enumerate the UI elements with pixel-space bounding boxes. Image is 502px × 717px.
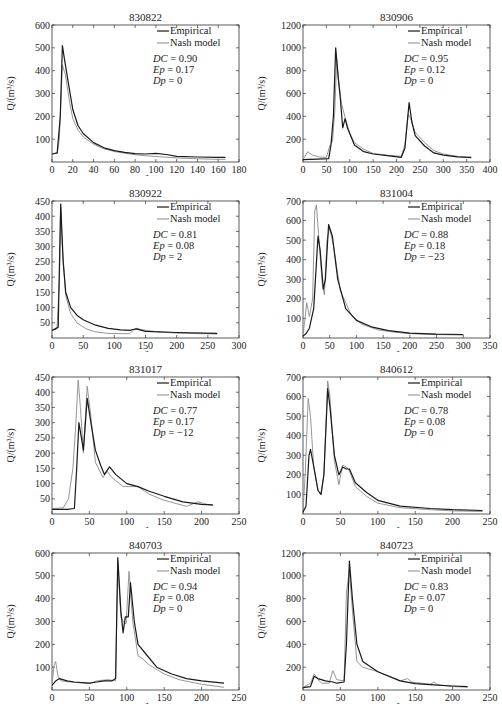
chart-panel-830922: 8309220501001502002503005010015020025030… [0, 176, 251, 352]
x-tick-label: 200 [169, 340, 184, 351]
x-tick-label: 50 [84, 516, 94, 527]
chart-panel-840612: 8406120501001502002501002003004005006007… [251, 352, 502, 528]
x-tick-label: 160 [211, 164, 226, 175]
y-tick-label: 200 [286, 469, 301, 480]
stat-dc: DC = 0.94 [152, 581, 198, 592]
stat-ep: Ep = 0.07 [403, 592, 445, 603]
stat-dc: DC = 0.90 [152, 53, 197, 64]
x-tick-label: 0 [301, 516, 306, 527]
x-tick-label: 50 [321, 164, 331, 175]
y-tick-label: 100 [286, 489, 301, 500]
y-axis-label: Q/(m³/s) [5, 604, 17, 638]
y-tick-label: 400 [35, 65, 50, 76]
legend-empirical: Empirical [421, 201, 462, 212]
legend-nash-model: Nash model [170, 565, 221, 576]
stat-ep: Ep = 0.17 [152, 64, 194, 75]
chart-panel-831017: 8310170501001502002505010015020025030035… [0, 352, 251, 528]
y-tick-label: 1200 [281, 548, 301, 559]
series-empirical-line [52, 46, 226, 158]
y-tick-label: 400 [286, 430, 301, 441]
series-nash-line [303, 205, 463, 335]
stat-dc: DC = 0.83 [403, 581, 448, 592]
x-tick-label: 150 [408, 516, 423, 527]
x-tick-label: 60 [109, 164, 119, 175]
x-tick-label: 150 [157, 516, 172, 527]
x-tick-label: 180 [232, 164, 247, 175]
y-axis-label: Q/(m³/s) [256, 252, 268, 286]
y-tick-label: 200 [35, 448, 50, 459]
y-tick-label: 100 [286, 313, 301, 324]
x-tick-label: 150 [408, 692, 423, 703]
x-tick-label: 250 [412, 164, 427, 175]
x-tick-label: 100 [370, 516, 385, 527]
legend-nash-model: Nash model [170, 37, 221, 48]
legend-nash-model: Nash model [421, 37, 472, 48]
x-tick-label: 150 [157, 692, 172, 703]
y-tick-label: 300 [35, 88, 50, 99]
y-tick-label: 400 [286, 111, 301, 122]
x-tick-label: 250 [483, 692, 498, 703]
y-tick-label: 200 [286, 134, 301, 145]
y-tick-label: 300 [35, 417, 50, 428]
chart-title: 831017 [129, 363, 163, 375]
y-tick-label: 600 [286, 88, 301, 99]
y-tick-label: 800 [286, 65, 301, 76]
x-tick-label: 50 [78, 340, 88, 351]
chart-title: 840612 [380, 363, 413, 375]
y-tick-label: 1200 [281, 20, 301, 31]
x-tick-label: 200 [445, 516, 460, 527]
legend-nash-model: Nash model [421, 213, 472, 224]
chart-title: 840703 [129, 539, 163, 551]
y-axis-label: Q/(m³/s) [5, 428, 17, 462]
series-nash-line [52, 562, 224, 687]
x-tick-label: 40 [89, 164, 99, 175]
x-tick-label: 0 [50, 692, 55, 703]
y-tick-label: 1000 [281, 42, 301, 53]
y-tick-label: 500 [286, 411, 301, 422]
chart-svg: 8406120501001502002501002003004005006007… [251, 352, 502, 528]
y-tick-label: 100 [35, 302, 50, 313]
legend-empirical: Empirical [170, 25, 211, 36]
y-tick-label: 350 [35, 402, 50, 413]
chart-title: 830822 [129, 11, 162, 23]
y-axis-label: Q/(m³/s) [256, 604, 268, 638]
y-tick-label: 400 [286, 254, 301, 265]
y-tick-label: 500 [35, 570, 50, 581]
y-tick-label: 400 [35, 211, 50, 222]
legend-empirical: Empirical [170, 377, 211, 388]
y-tick-label: 600 [35, 548, 50, 559]
x-tick-label: 50 [325, 340, 335, 351]
stat-ep: Ep = 0.18 [403, 240, 445, 251]
legend-nash-model: Nash model [170, 213, 221, 224]
x-tick-label: 0 [50, 164, 55, 175]
x-tick-label: 200 [194, 692, 209, 703]
stat-ep: Ep = 0.08 [152, 240, 194, 251]
series-nash-line [303, 59, 471, 159]
y-tick-label: 700 [286, 196, 301, 207]
y-tick-label: 200 [35, 111, 50, 122]
y-tick-label: 600 [286, 215, 301, 226]
stat-dc: DC = 0.88 [403, 229, 448, 240]
x-tick-label: 0 [301, 340, 306, 351]
legend-nash-model: Nash model [421, 565, 472, 576]
x-tick-label: 200 [194, 516, 209, 527]
x-tick-label: 250 [483, 516, 498, 527]
legend-empirical: Empirical [170, 553, 211, 564]
y-tick-label: 50 [40, 317, 50, 328]
chart-title: 831004 [380, 187, 414, 199]
stat-ep: Ep = 0.08 [403, 416, 445, 427]
x-tick-label: 150 [366, 164, 381, 175]
stat-dp: Dp = 0 [152, 75, 182, 86]
x-tick-label: 350 [459, 164, 474, 175]
x-tick-label: 250 [200, 340, 215, 351]
series-empirical-line [303, 389, 483, 512]
stat-ep: Ep = 0.08 [152, 592, 194, 603]
y-tick-label: 300 [35, 241, 50, 252]
x-tick-label: 80 [130, 164, 140, 175]
x-tick-label: 300 [436, 164, 451, 175]
stat-dp: Dp = 0 [403, 427, 433, 438]
y-tick-label: 200 [286, 293, 301, 304]
x-tick-label: 300 [456, 340, 471, 351]
stat-dp: Dp = 0 [403, 75, 433, 86]
legend-nash-model: Nash model [170, 389, 221, 400]
